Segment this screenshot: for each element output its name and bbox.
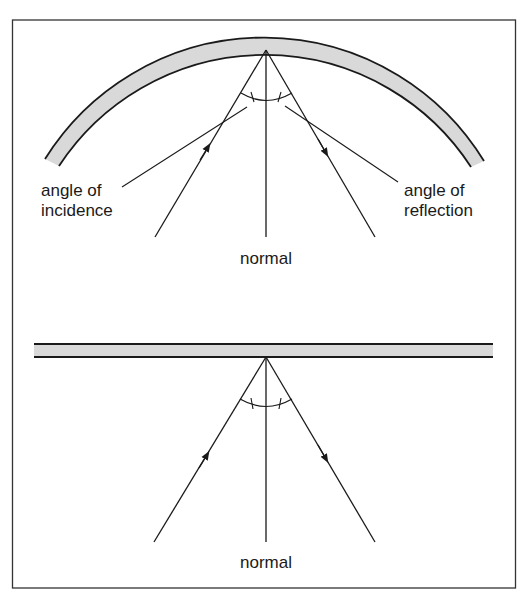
label-angle-of-reflection-line1: angle of — [404, 181, 465, 200]
curved-mirror-inner-edge — [59, 55, 471, 167]
incident-ray-arrow-icon — [199, 455, 207, 468]
label-normal-top: normal — [240, 249, 292, 268]
incidence-leader-line — [122, 107, 247, 187]
label-normal-bottom: normal — [240, 553, 292, 572]
incident-ray — [154, 357, 266, 542]
label-angle-of-incidence-line2: incidence — [41, 201, 113, 220]
reflection-diagram: angle of incidence angle of reflection n… — [0, 0, 520, 596]
angle-tick-right — [278, 92, 281, 102]
reflected-ray-arrow-icon — [318, 445, 326, 459]
label-angle-of-reflection-line2: reflection — [404, 201, 473, 220]
flat-mirror-panel: normal — [34, 344, 493, 572]
diagram-frame — [13, 20, 516, 588]
incident-ray — [155, 50, 266, 237]
reflection-leader-line — [285, 106, 398, 182]
reflected-ray-arrow-icon — [318, 139, 326, 153]
curved-mirror — [45, 38, 484, 167]
angle-tick-left — [251, 92, 254, 102]
curved-mirror-panel: angle of incidence angle of reflection n… — [41, 38, 484, 268]
incident-ray-arrow-icon — [200, 147, 208, 160]
label-angle-of-incidence-line1: angle of — [41, 181, 102, 200]
flat-mirror — [34, 344, 493, 357]
